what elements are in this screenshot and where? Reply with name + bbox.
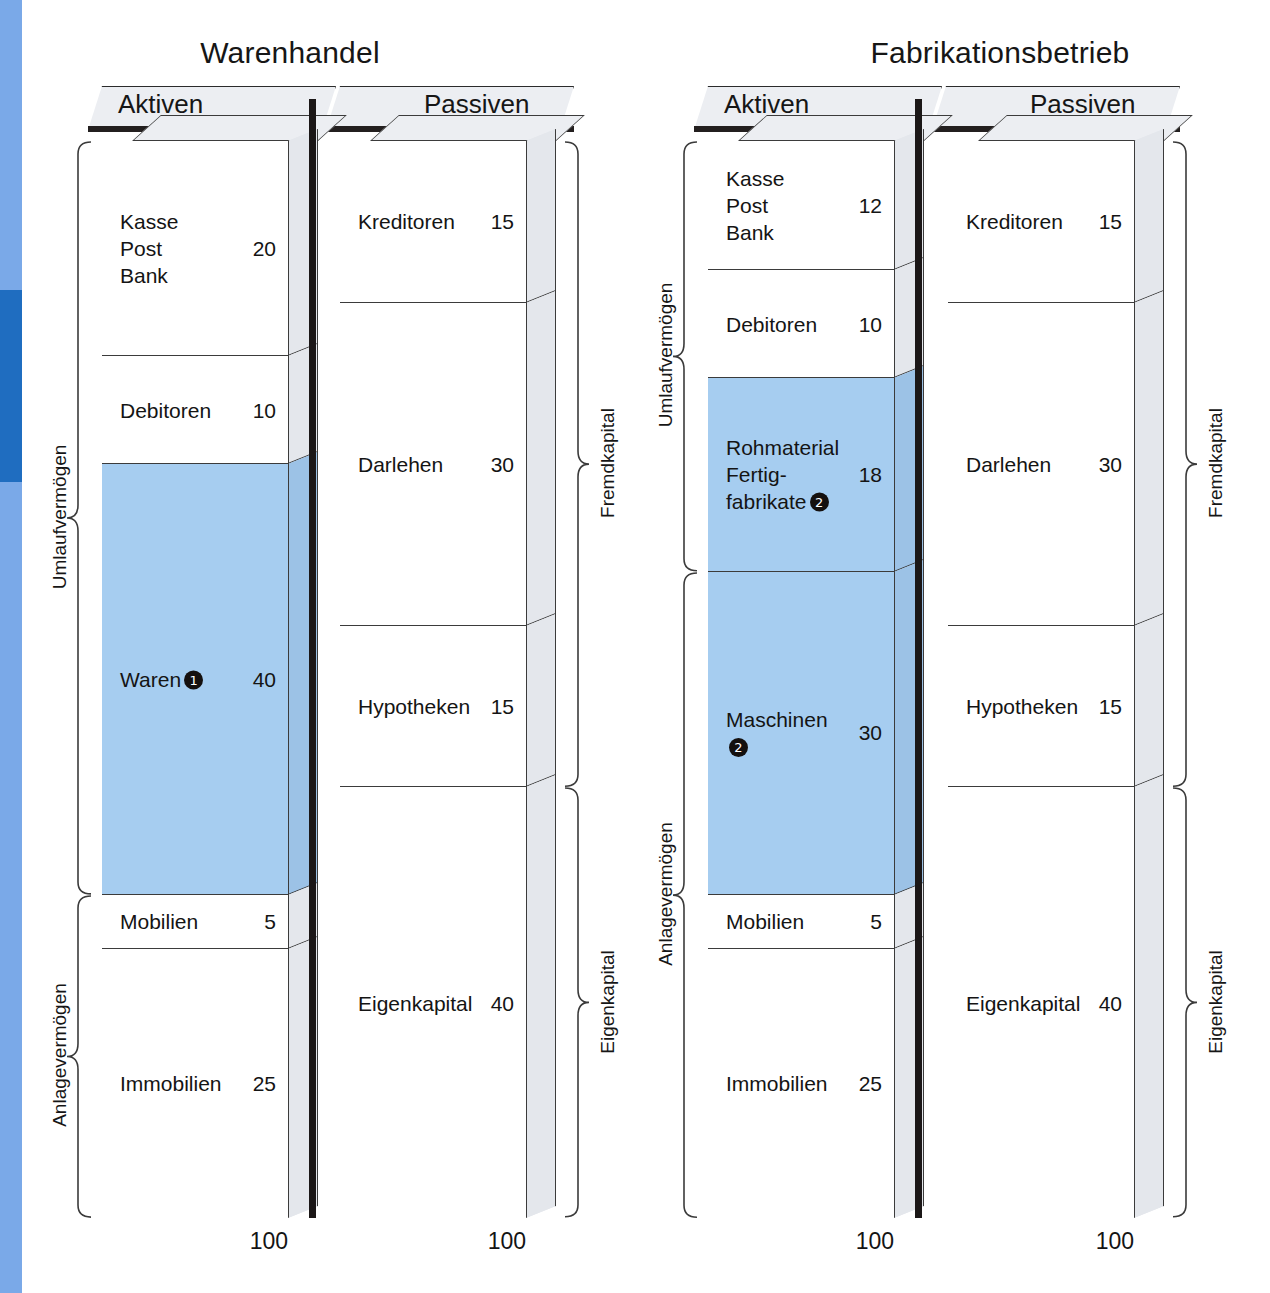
fabrikation-aktiven-segment: Kasse Post Bank12 xyxy=(708,141,894,270)
warenhandel-passiven-side-segment xyxy=(527,129,555,302)
balance-sheet-warenhandel: Warenhandel AktivenPassivenKasse Post Ba… xyxy=(0,0,640,1293)
warenhandel-passiven-segment-value: 30 xyxy=(481,450,514,477)
fabrikation-aktiven-segment: Mobilien5 xyxy=(708,895,894,949)
warenhandel-aktiven-segment-label: Kasse Post Bank xyxy=(120,208,178,289)
fabrikation-aktiven-segment-row: Mobilien5 xyxy=(726,908,882,935)
warenhandel-passiven-column-side-panel xyxy=(526,129,556,1218)
fabrikation-aktiven-segment: Maschinen230 xyxy=(708,572,894,895)
warenhandel-passiven-segment: Hypotheken15 xyxy=(340,626,526,788)
warenhandel-aktiven-segment: Waren140 xyxy=(102,464,288,895)
warenhandel-passiven-side-segment xyxy=(527,291,555,625)
warenhandel-aktiven-segment-row: Debitoren10 xyxy=(120,396,276,423)
fabrikation-aktiven-segment: Rohmaterial Fertig- fabrikate218 xyxy=(708,378,894,572)
warenhandel-passiven-segment-row: Kreditoren15 xyxy=(358,208,514,235)
fabrikation-liability-group-label: Eigenkapital xyxy=(1205,907,1227,1097)
fabrikation-aktiven-segment-value: 12 xyxy=(849,192,882,219)
fabrikation-aktiven-segment-label: Kasse Post Bank xyxy=(726,165,784,246)
fabrikation-liability-group-brace xyxy=(1172,141,1198,787)
warenhandel-passiven-segment-row: Eigenkapital40 xyxy=(358,989,514,1016)
warenhandel-passiven-segment-value: 40 xyxy=(481,989,514,1016)
warenhandel-aktiven-total: 100 xyxy=(188,1228,288,1255)
warenhandel-aktiven-segment-row: Immobilien25 xyxy=(120,1070,276,1097)
warenhandel-passiven-total: 100 xyxy=(426,1228,526,1255)
warenhandel-liability-group-brace xyxy=(564,141,590,787)
warenhandel-aktiven-segment-value: 40 xyxy=(243,665,276,692)
warenhandel-aktiven-segment-label: Mobilien xyxy=(120,908,198,935)
warenhandel-passiven-segment-row: Hypotheken15 xyxy=(358,692,514,719)
warenhandel-asset-group-label: Anlagevermögen xyxy=(49,960,71,1150)
fabrikation-passiven-side-segment xyxy=(1135,291,1163,625)
fabrikation-asset-group-label: Anlagevermögen xyxy=(655,799,677,989)
warenhandel-aktiven-segment-value: 20 xyxy=(243,235,276,262)
fabrikation-aktiven-segment-value: 30 xyxy=(849,719,882,746)
warenhandel-passiven-segment-label: Eigenkapital xyxy=(358,989,472,1016)
fabrikation-passiven-segment-label: Hypotheken xyxy=(966,692,1078,719)
fabrikation-liability-group-label: Fremdkapital xyxy=(1205,368,1227,558)
fabrikation-aktiven-segment-label: Debitoren xyxy=(726,310,817,337)
footnote-marker-2: 2 xyxy=(729,738,748,757)
fabrikation-aktiven-segment-value: 18 xyxy=(849,461,882,488)
fabrikation-passiven-segment-row: Kreditoren15 xyxy=(966,208,1122,235)
warenhandel-aktiven-column-face: Kasse Post Bank20Debitoren10Waren140Mobi… xyxy=(102,141,288,1218)
fabrikation-aktiven-segment: Immobilien25 xyxy=(708,949,894,1218)
balance-sheet-fabrikationsbetrieb: Fabrikationsbetrieb AktivenPassivenKasse… xyxy=(600,0,1270,1293)
fabrikation-aktiven-column-face: Kasse Post Bank12Debitoren10Rohmaterial … xyxy=(708,141,894,1218)
fabrikation-passiven-segment-value: 40 xyxy=(1089,989,1122,1016)
fabrikation-aktiven-segment-label: Mobilien xyxy=(726,908,804,935)
footnote-marker-1: 1 xyxy=(184,670,203,689)
fabrikation-passiven-segment: Darlehen30 xyxy=(948,303,1134,626)
fabrikation-aktiven-segment-row: Immobilien25 xyxy=(726,1070,882,1097)
fabrikation-aktiven-segment-label: Immobilien xyxy=(726,1070,828,1097)
fabrikation-aktiven-segment-label: Maschinen2 xyxy=(726,706,849,760)
fabrikation-passiven-segment: Hypotheken15 xyxy=(948,626,1134,788)
warenhandel-passiven-segment: Kreditoren15 xyxy=(340,141,526,303)
warenhandel-aktiven-segment-row: Kasse Post Bank20 xyxy=(120,208,276,289)
fabrikation-aktiven-total: 100 xyxy=(794,1228,894,1255)
warenhandel-aktiven-segment: Mobilien5 xyxy=(102,895,288,949)
chart-title-fabrikationsbetrieb: Fabrikationsbetrieb xyxy=(800,36,1200,70)
warenhandel-aktiven-segment-label: Immobilien xyxy=(120,1070,222,1097)
fabrikation-passiven-segment-label: Eigenkapital xyxy=(966,989,1080,1016)
fabrikation-aktiven-segment-value: 10 xyxy=(849,310,882,337)
warenhandel-passiven-side-segment xyxy=(527,614,555,787)
warenhandel-aktiven-segment: Debitoren10 xyxy=(102,356,288,464)
fabrikation-passiven-segment: Kreditoren15 xyxy=(948,141,1134,303)
fabrikation-passiven-total: 100 xyxy=(1034,1228,1134,1255)
fabrikation-aktiven-segment-row: Rohmaterial Fertig- fabrikate218 xyxy=(726,434,882,515)
warenhandel-passiven-segment: Darlehen30 xyxy=(340,303,526,626)
fabrikation-aktiven-segment-row: Debitoren10 xyxy=(726,310,882,337)
warenhandel-aktiven-segment: Kasse Post Bank20 xyxy=(102,141,288,356)
fabrikation-passiven-segment-row: Darlehen30 xyxy=(966,450,1122,477)
warenhandel-passiven-segment-label: Kreditoren xyxy=(358,208,455,235)
warenhandel-passiven-segment: Eigenkapital40 xyxy=(340,787,526,1218)
warenhandel-passiven-segment-value: 15 xyxy=(481,208,514,235)
warenhandel-aktiven-segment-value: 25 xyxy=(243,1070,276,1097)
fabrikation-aktiven-segment: Debitoren10 xyxy=(708,270,894,378)
fabrikation-asset-group-label: Umlaufvermögen xyxy=(655,260,677,450)
fabrikation-aktiven-segment-row: Kasse Post Bank12 xyxy=(726,165,882,246)
warenhandel-aktiven-segment-label: Waren1 xyxy=(120,665,203,692)
fabrikation-center-divider xyxy=(915,99,922,1218)
warenhandel-passiven-segment-value: 15 xyxy=(481,692,514,719)
warenhandel-liability-group-brace xyxy=(564,787,590,1218)
warenhandel-passiven-segment-label: Hypotheken xyxy=(358,692,470,719)
warenhandel-aktiven-segment-label: Debitoren xyxy=(120,396,211,423)
fabrikation-liability-group-brace xyxy=(1172,787,1198,1218)
fabrikation-passiven-side-segment xyxy=(1135,775,1163,1217)
fabrikation-passiven-side-segment xyxy=(1135,129,1163,302)
warenhandel-aktiven-segment-value: 10 xyxy=(243,396,276,423)
fabrikation-passiven-side-segment xyxy=(1135,614,1163,787)
warenhandel-aktiven-segment-value: 5 xyxy=(254,908,276,935)
fabrikation-passiven-column-face: Kreditoren15Darlehen30Hypotheken15Eigenk… xyxy=(948,141,1134,1218)
warenhandel-aktiven-segment-row: Mobilien5 xyxy=(120,908,276,935)
warenhandel-passiven-side-segment xyxy=(527,775,555,1217)
fabrikation-passiven-segment-value: 15 xyxy=(1089,208,1122,235)
fabrikation-aktiven-segment-row: Maschinen230 xyxy=(726,706,882,760)
fabrikation-passiven-segment-value: 30 xyxy=(1089,450,1122,477)
warenhandel-aktiven-segment-row: Waren140 xyxy=(120,665,276,692)
fabrikation-passiven-segment-label: Darlehen xyxy=(966,450,1051,477)
fabrikation-aktiven-segment-label: Rohmaterial Fertig- fabrikate2 xyxy=(726,434,839,515)
fabrikation-aktiven-segment-value: 25 xyxy=(849,1070,882,1097)
warenhandel-center-divider xyxy=(309,99,316,1218)
footnote-marker-2: 2 xyxy=(810,493,829,512)
